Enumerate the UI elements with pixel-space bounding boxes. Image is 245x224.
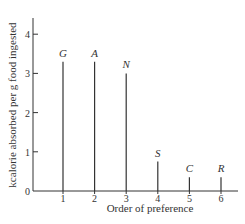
axes <box>33 18 238 191</box>
stem-label: R <box>217 162 225 174</box>
y-tick-label: 3 <box>25 68 30 79</box>
x-axis-label: Order of preference <box>107 202 194 214</box>
x-tick-label: 6 <box>219 193 224 204</box>
x-tick-label: 2 <box>92 193 97 204</box>
stems: GANSCR <box>59 47 225 191</box>
stem-label: N <box>122 58 131 70</box>
stem-chart: 01234 123456 GANSCR Order of preference … <box>0 0 245 224</box>
y-tick-label: 0 <box>25 186 30 197</box>
stem-label: A <box>90 47 98 59</box>
x-tick-label: 1 <box>61 193 66 204</box>
stem-label: S <box>155 147 161 159</box>
stem-label: C <box>186 162 194 174</box>
y-axis-label: kcalorie absorbed per g food ingested <box>6 22 18 188</box>
stem-label: G <box>59 47 67 59</box>
y-ticks: 01234 <box>25 29 38 197</box>
y-tick-label: 1 <box>25 147 30 158</box>
y-tick-label: 4 <box>25 29 30 40</box>
y-tick-label: 2 <box>25 108 30 119</box>
